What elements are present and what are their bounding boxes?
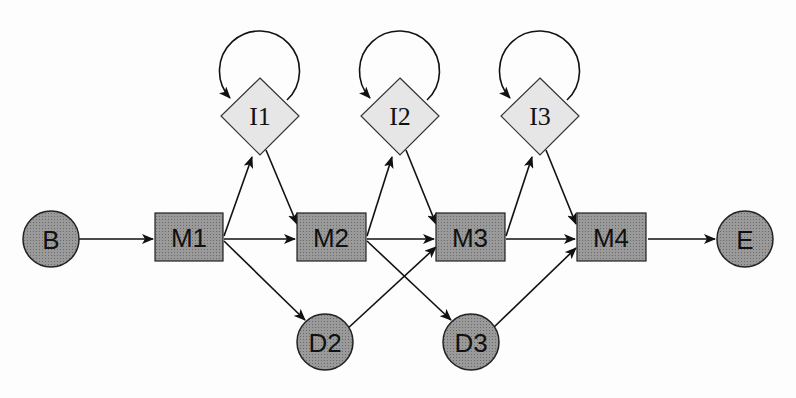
svg-text:E: E: [736, 225, 753, 255]
edge-m1-i1: [224, 157, 252, 236]
edge-m2-i2: [367, 157, 392, 236]
node-i2: I2: [361, 78, 439, 155]
edge-i2-m3: [406, 150, 436, 224]
svg-text:I2: I2: [389, 102, 411, 131]
svg-text:M2: M2: [313, 223, 349, 253]
svg-text:B: B: [42, 225, 59, 255]
node-begin: B: [23, 211, 79, 267]
node-d3: D3: [443, 314, 499, 370]
svg-text:D2: D2: [308, 328, 341, 358]
edge-m1-d2: [224, 241, 305, 320]
node-i3: I3: [501, 78, 579, 155]
profile-hmm-diagram: B M1 M2 M3 M4 E I1 I2 I3 D2 D3: [0, 0, 796, 398]
node-d2: D2: [297, 314, 353, 370]
node-m2: M2: [297, 213, 366, 261]
svg-text:D3: D3: [454, 328, 487, 358]
svg-text:M4: M4: [593, 223, 629, 253]
svg-text:M1: M1: [171, 223, 207, 253]
node-end: E: [717, 211, 773, 267]
node-i1: I1: [221, 78, 299, 155]
edges: [79, 31, 715, 330]
edge-i3-m4: [546, 150, 576, 224]
node-m4: M4: [577, 213, 646, 261]
edge-i1-m2: [266, 150, 297, 224]
svg-text:M3: M3: [452, 223, 488, 253]
node-m3: M3: [436, 213, 505, 261]
svg-text:I3: I3: [529, 102, 551, 131]
node-m1: M1: [155, 213, 223, 261]
svg-text:I1: I1: [249, 102, 271, 131]
edge-m3-i3: [506, 157, 532, 236]
